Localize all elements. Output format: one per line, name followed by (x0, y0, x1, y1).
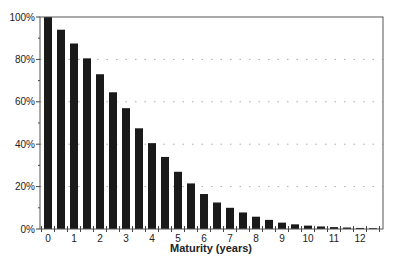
bar (44, 17, 52, 229)
bar (148, 143, 156, 229)
y-tick-label: 60% (15, 96, 35, 107)
x-tick-label: 0 (45, 233, 51, 244)
bar-chart: 0%20%40%60%80%100% 0123456789101112 Matu… (0, 0, 396, 267)
x-tick-label: 9 (279, 233, 285, 244)
bar (278, 223, 286, 229)
bar (187, 183, 195, 229)
x-tick-label: 8 (253, 233, 259, 244)
x-tick-label: 3 (123, 233, 129, 244)
bar (96, 74, 104, 229)
bar (109, 92, 117, 229)
bar-series (44, 17, 377, 229)
x-tick-label: 1 (71, 233, 77, 244)
bar (304, 226, 312, 229)
x-tick-label: 4 (149, 233, 155, 244)
plot-frame (40, 17, 383, 229)
bar (83, 58, 91, 229)
bar (135, 128, 143, 229)
y-gridlines (40, 59, 383, 186)
bar (291, 224, 299, 229)
x-tick-label: 10 (302, 233, 314, 244)
x-axis-title: Maturity (years) (170, 242, 252, 254)
bar (70, 44, 78, 230)
x-tick-label: 11 (329, 233, 340, 244)
bar (122, 108, 130, 229)
x-tick-label: 2 (97, 233, 103, 244)
x-tick-label: 12 (354, 233, 366, 244)
bar (226, 208, 234, 229)
y-tick-label: 20% (15, 181, 35, 192)
bar (161, 157, 169, 229)
bar (265, 220, 273, 229)
y-axis: 0%20%40%60%80%100% (9, 12, 40, 235)
y-tick-label: 40% (15, 139, 35, 150)
y-tick-label: 0% (21, 224, 36, 235)
bar (252, 217, 260, 229)
bar (174, 172, 182, 229)
bar (57, 30, 65, 229)
bar (239, 212, 247, 229)
bar (200, 194, 208, 229)
y-tick-label: 80% (15, 54, 35, 65)
y-tick-label: 100% (9, 12, 35, 23)
bar (213, 203, 221, 230)
